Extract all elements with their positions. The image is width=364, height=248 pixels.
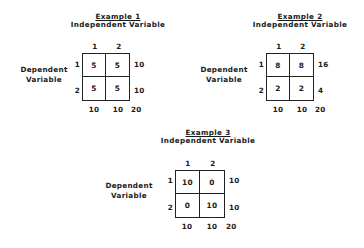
example-3-row-total-2: 10 bbox=[229, 203, 249, 212]
example-1-cell-r1c1: 5 bbox=[83, 54, 106, 77]
example-1-row-header-1: 1 bbox=[66, 60, 80, 69]
example-3-column-total-1: 10 bbox=[177, 222, 197, 231]
example-2-column-header-1: 1 bbox=[269, 42, 289, 51]
example-2-table-grid: 8 8 2 2 bbox=[266, 53, 314, 101]
example-2-cell-r2c1: 2 bbox=[267, 77, 290, 100]
example-2-dep-label-line1: Dependent bbox=[200, 65, 247, 74]
example-1-cell-r1c2: 5 bbox=[106, 54, 129, 77]
example-2-row-total-1: 16 bbox=[318, 60, 338, 69]
example-1-column-header-1: 1 bbox=[85, 42, 105, 51]
example-1-grand-total: 20 bbox=[131, 105, 151, 114]
example-2-cell-r2c2: 2 bbox=[290, 77, 313, 100]
example-3-column-total-2: 10 bbox=[202, 222, 222, 231]
example-2-cell-r1c2: 8 bbox=[290, 54, 313, 77]
example-3-row-header-2: 2 bbox=[159, 203, 173, 212]
example-2-subtitle: Independent Variable bbox=[244, 21, 356, 29]
example-1-subtitle: Independent Variable bbox=[62, 21, 174, 29]
example-1-cell-r2c2: 5 bbox=[106, 77, 129, 100]
example-3-cell-r1c1: 10 bbox=[176, 171, 200, 194]
example-1-title-group: Example 1 Independent Variable bbox=[62, 13, 174, 30]
example-3-dep-label-line2: Variable bbox=[111, 191, 147, 200]
example-2-row-total-2: 4 bbox=[318, 86, 338, 95]
example-1-row-total-1: 10 bbox=[134, 60, 154, 69]
figure-canvas: Example 1 Independent Variable Dependent… bbox=[0, 0, 364, 248]
example-3-row-header-1: 1 bbox=[159, 176, 173, 185]
example-1-column-total-1: 10 bbox=[84, 105, 104, 114]
example-1-table-grid: 5 5 5 5 bbox=[82, 53, 130, 101]
example-3-subtitle: Independent Variable bbox=[152, 137, 264, 145]
example-2-dep-label-line2: Variable bbox=[206, 75, 242, 84]
example-1-dependent-variable-label: Dependent Variable bbox=[16, 65, 72, 84]
example-1-column-header-2: 2 bbox=[109, 42, 129, 51]
example-3-column-header-1: 1 bbox=[178, 159, 198, 168]
example-3-dependent-variable-label: Dependent Variable bbox=[101, 181, 157, 200]
example-2-row-header-2: 2 bbox=[250, 86, 264, 95]
example-3-column-header-2: 2 bbox=[203, 159, 223, 168]
example-3-table-grid: 10 0 0 10 bbox=[175, 170, 225, 218]
example-2-row-header-1: 1 bbox=[250, 60, 264, 69]
example-2-dependent-variable-label: Dependent Variable bbox=[196, 65, 252, 84]
example-3-cell-r2c2: 10 bbox=[200, 194, 224, 217]
example-1-dep-label-line2: Variable bbox=[26, 75, 62, 84]
example-3-title-group: Example 3 Independent Variable bbox=[152, 129, 264, 146]
example-2-column-total-2: 10 bbox=[292, 105, 312, 114]
example-2-column-header-2: 2 bbox=[293, 42, 313, 51]
example-1-row-header-2: 2 bbox=[66, 86, 80, 95]
example-3-dep-label-line1: Dependent bbox=[105, 181, 152, 190]
example-3-row-total-1: 10 bbox=[229, 176, 249, 185]
example-2-grand-total: 20 bbox=[315, 105, 335, 114]
example-1-column-total-2: 10 bbox=[108, 105, 128, 114]
example-1-dep-label-line1: Dependent bbox=[20, 65, 67, 74]
example-3-cell-r1c2: 0 bbox=[200, 171, 224, 194]
example-3-grand-total: 20 bbox=[226, 222, 246, 231]
example-1-row-total-2: 10 bbox=[134, 86, 154, 95]
example-2-cell-r1c1: 8 bbox=[267, 54, 290, 77]
example-2-title-group: Example 2 Independent Variable bbox=[244, 13, 356, 30]
example-3-cell-r2c1: 0 bbox=[176, 194, 200, 217]
example-2-column-total-1: 10 bbox=[268, 105, 288, 114]
example-1-cell-r2c1: 5 bbox=[83, 77, 106, 100]
